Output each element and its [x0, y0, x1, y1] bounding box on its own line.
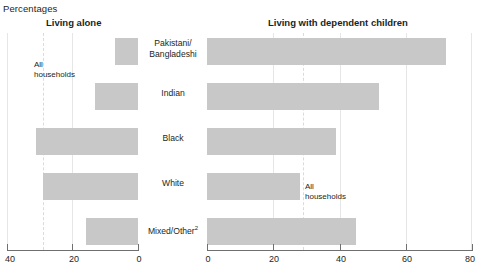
- category-label-text: White: [162, 178, 184, 188]
- right-bar-mixed-other: [207, 218, 356, 245]
- left-tick-label-40: 40: [5, 254, 15, 264]
- right-bar-slot-indian: [207, 83, 472, 110]
- right-tick-label-20: 20: [269, 254, 279, 264]
- right-tick-80: [472, 244, 473, 250]
- category-label-line-2: Bangladeshi: [149, 49, 196, 59]
- left-bar-pakistani-bangladeshi: [115, 38, 138, 65]
- chart-root: Percentages Living alone Living with dep…: [0, 0, 478, 271]
- annotation-all-households-left: All households: [34, 60, 75, 79]
- left-tick-label-20: 20: [69, 254, 79, 264]
- right-tick-40: [340, 244, 341, 250]
- right-tick-20: [273, 244, 274, 250]
- left-bar-slot-black: [7, 128, 138, 155]
- right-bar-slot-black: [207, 128, 472, 155]
- category-label-text: Indian: [161, 88, 184, 98]
- right-plot-area: [207, 33, 472, 250]
- annotation-all-households-right: All households: [305, 182, 346, 201]
- panel-title-living-alone: Living alone: [46, 17, 101, 28]
- left-bar-slot-mixed-other: [7, 218, 138, 245]
- panel-title-living-with-dependent-children: Living with dependent children: [268, 17, 408, 28]
- category-label-line-1: Pakistani/: [154, 38, 191, 48]
- category-label-text: Black: [162, 133, 183, 143]
- right-tick-0: [207, 244, 208, 250]
- right-bar-slot-mixed-other: [207, 218, 472, 245]
- right-tick-label-40: 40: [336, 254, 346, 264]
- left-bar-slot-indian: [7, 83, 138, 110]
- left-tick-40: [7, 244, 8, 250]
- right-bar-indian: [207, 83, 379, 110]
- left-bar-black: [36, 128, 138, 155]
- unit-label: Percentages: [3, 3, 57, 14]
- category-label-pakistani-bangladeshi: Pakistani/ Bangladeshi: [139, 38, 207, 59]
- category-footnote-marker: 2: [195, 225, 198, 231]
- right-bar-black: [207, 128, 336, 155]
- left-bar-white: [43, 173, 138, 200]
- right-bar-pakistani-bangladeshi: [207, 38, 446, 65]
- right-axis-line: [207, 250, 473, 251]
- left-bar-slot-white: [7, 173, 138, 200]
- left-axis-line: [7, 250, 139, 251]
- right-tick-label-0: 0: [205, 254, 210, 264]
- left-bar-mixed-other: [86, 218, 138, 245]
- category-label-black: Black: [139, 133, 207, 144]
- right-bar-slot-pakistani-bangladeshi: [207, 38, 472, 65]
- right-bar-white: [207, 173, 300, 200]
- right-tick-60: [406, 244, 407, 250]
- category-label-text: Mixed/Other: [148, 226, 195, 236]
- right-tick-label-60: 60: [402, 254, 412, 264]
- right-tick-label-80: 80: [465, 254, 475, 264]
- left-tick-0: [138, 244, 139, 250]
- category-label-white: White: [139, 178, 207, 189]
- category-label-indian: Indian: [139, 88, 207, 99]
- category-label-mixed-other: Mixed/Other2: [139, 223, 207, 236]
- left-tick-20: [72, 244, 73, 250]
- left-bar-indian: [95, 83, 138, 110]
- left-tick-label-0: 0: [136, 254, 141, 264]
